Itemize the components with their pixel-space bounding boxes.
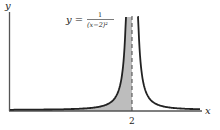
svg-text:y =: y = [65,14,83,25]
shaded-area [10,17,132,111]
x-tick-label-2: 2 [129,116,135,126]
svg-text:(x−2)²: (x−2)² [87,21,108,29]
equation-label: y = 1 (x−2)² [65,11,114,29]
chart: y x 2 y = 1 (x−2)² [0,0,220,130]
svg-text:1: 1 [98,11,102,19]
curve-left-branch [10,17,126,110]
x-axis-label: x [205,105,211,116]
curve-right-branch [138,17,201,109]
y-axis-label: y [4,0,11,11]
